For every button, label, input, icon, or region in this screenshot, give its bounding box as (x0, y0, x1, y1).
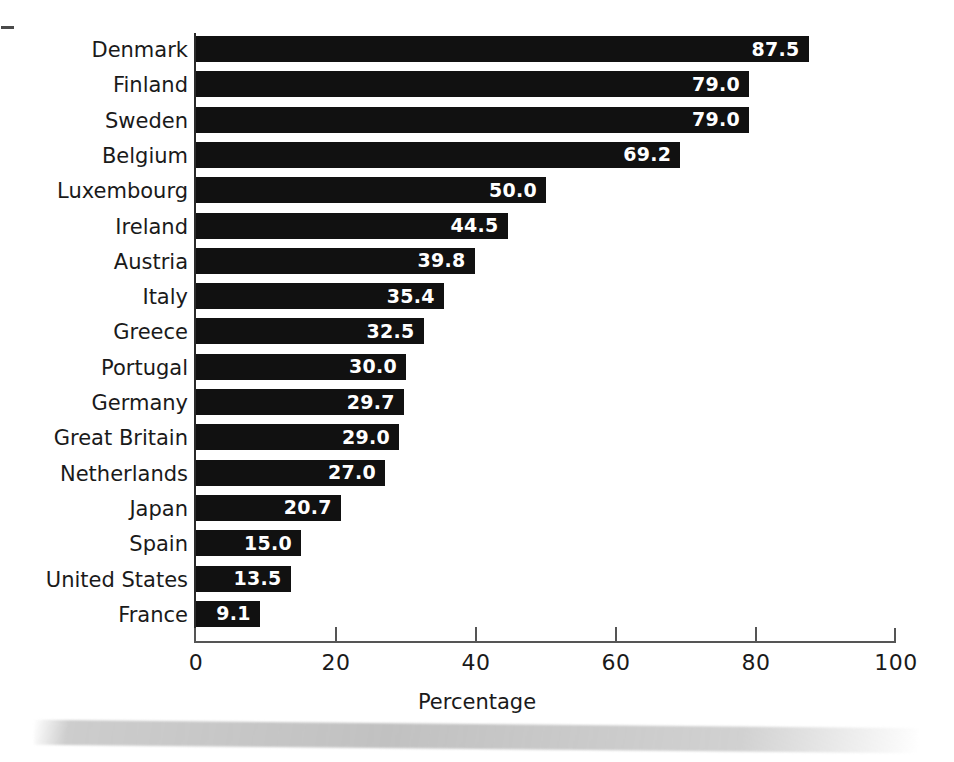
bar-row: Belgium69.2 (0, 142, 954, 168)
bar-value-label: 44.5 (450, 216, 498, 235)
bar-row: United States13.5 (0, 566, 954, 592)
x-tick-mark (475, 627, 477, 642)
bar-value-label: 79.0 (692, 75, 740, 94)
x-tick-mark (755, 627, 757, 642)
bar: 44.5 (196, 213, 508, 239)
bar-row: Spain15.0 (0, 530, 954, 556)
bar-chart: Denmark87.5Finland79.0Sweden79.0Belgium6… (0, 0, 954, 762)
bar-value-label: 20.7 (284, 498, 332, 517)
bar-value-label: 32.5 (366, 322, 414, 341)
bar-row: Germany29.7 (0, 389, 954, 415)
bar: 79.0 (196, 71, 749, 97)
bar: 20.7 (196, 495, 341, 521)
category-label: Luxembourg (57, 178, 188, 204)
category-label: Greece (113, 319, 188, 345)
x-tick-label: 0 (189, 650, 204, 675)
scan-artifact-dash (1, 26, 14, 29)
bar-row: Netherlands27.0 (0, 460, 954, 486)
bar: 30.0 (196, 354, 406, 380)
bar-row: Japan20.7 (0, 495, 954, 521)
bar: 69.2 (196, 142, 680, 168)
category-label: Belgium (102, 143, 188, 169)
bar-value-label: 27.0 (328, 463, 376, 482)
bar-value-label: 29.7 (347, 393, 395, 412)
x-axis-line (194, 641, 896, 643)
bar: 32.5 (196, 318, 424, 344)
bar-row: Austria39.8 (0, 248, 954, 274)
bar-row: Greece32.5 (0, 318, 954, 344)
category-label: Austria (114, 249, 188, 275)
category-label: Finland (113, 72, 188, 98)
bar-row: Denmark87.5 (0, 36, 954, 62)
category-label: Italy (142, 284, 188, 310)
bar: 27.0 (196, 460, 385, 486)
bar: 9.1 (196, 601, 260, 627)
x-axis-endcap-right (894, 628, 896, 642)
category-label: Portugal (101, 355, 188, 381)
bar: 15.0 (196, 530, 301, 556)
bar-row: Italy35.4 (0, 283, 954, 309)
bar-value-label: 35.4 (387, 287, 435, 306)
category-label: Sweden (105, 108, 188, 134)
category-label: Denmark (91, 37, 188, 63)
x-tick-label: 20 (322, 650, 351, 675)
bar: 29.0 (196, 424, 399, 450)
bar: 39.8 (196, 248, 475, 274)
bar: 35.4 (196, 283, 444, 309)
bar-row: Finland79.0 (0, 71, 954, 97)
x-tick-label: 60 (602, 650, 631, 675)
bar: 50.0 (196, 177, 546, 203)
category-label: Great Britain (54, 425, 188, 451)
x-tick-label: 80 (742, 650, 771, 675)
category-label: Spain (129, 531, 188, 557)
bar-value-label: 50.0 (489, 181, 537, 200)
x-tick-label: 100 (874, 650, 918, 675)
x-tick-mark (615, 627, 617, 642)
bar-value-label: 79.0 (692, 110, 740, 129)
bar-row: Great Britain29.0 (0, 424, 954, 450)
bar: 87.5 (196, 36, 809, 62)
bar: 29.7 (196, 389, 404, 415)
bar-row: France9.1 (0, 601, 954, 627)
bar-row: Sweden79.0 (0, 107, 954, 133)
bar-value-label: 39.8 (418, 251, 466, 270)
category-label: Japan (129, 496, 188, 522)
bar-value-label: 13.5 (233, 569, 281, 588)
x-tick-mark (335, 627, 337, 642)
bar-value-label: 87.5 (751, 40, 799, 59)
category-label: Germany (91, 390, 188, 416)
category-label: United States (46, 567, 188, 593)
page-edge-shadow (34, 720, 918, 753)
category-label: Ireland (115, 214, 188, 240)
bar-value-label: 9.1 (216, 604, 251, 623)
x-axis-title: Percentage (0, 690, 954, 714)
bar: 79.0 (196, 107, 749, 133)
category-label: France (118, 602, 188, 628)
bar-row: Luxembourg50.0 (0, 177, 954, 203)
x-axis-endcap-left (194, 628, 196, 642)
bar-value-label: 29.0 (342, 428, 390, 447)
bar-value-label: 15.0 (244, 534, 292, 553)
category-label: Netherlands (60, 461, 188, 487)
x-tick-label: 40 (462, 650, 491, 675)
bar-value-label: 69.2 (623, 145, 671, 164)
bar: 13.5 (196, 566, 291, 592)
bar-row: Ireland44.5 (0, 213, 954, 239)
bar-row: Portugal30.0 (0, 354, 954, 380)
bar-value-label: 30.0 (349, 357, 397, 376)
